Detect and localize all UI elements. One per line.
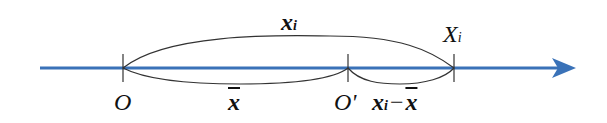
arc-label-xi-minus-xbar: xi−x xyxy=(372,90,417,114)
point-label-O: O xyxy=(114,90,131,114)
point-label-X-i: Xi xyxy=(443,22,462,46)
arc-O-to-Oprime xyxy=(123,68,348,84)
point-label-O-prime: O' xyxy=(334,90,356,114)
arc-label-x-bar: x xyxy=(228,90,240,114)
arc-label-x-i: xi xyxy=(281,10,297,34)
arc-Oprime-to-Xi xyxy=(348,68,454,84)
number-line-diagram xyxy=(0,0,607,123)
arc-O-to-Xi xyxy=(123,36,454,68)
